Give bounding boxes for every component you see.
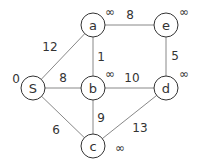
- node-b-label: b: [89, 81, 97, 96]
- weight-S-c: 6: [52, 123, 60, 137]
- node-e-label: e: [162, 18, 170, 33]
- node-c-label: c: [89, 139, 96, 154]
- node-a-label: a: [89, 18, 97, 33]
- weight-a-e: 8: [126, 8, 134, 22]
- weight-S-a: 12: [42, 40, 57, 54]
- node-S: S: [21, 76, 45, 100]
- weight-S-b: 8: [59, 71, 67, 85]
- dist-S: 0: [12, 72, 20, 86]
- node-c: c: [81, 134, 105, 158]
- dist-d: ∞: [179, 67, 189, 81]
- weight-b-c: 9: [97, 111, 105, 125]
- dist-a: ∞: [105, 5, 115, 19]
- edge-S-c: [33, 88, 93, 146]
- weight-b-d: 10: [124, 71, 139, 85]
- node-d: d: [154, 76, 178, 100]
- node-e: e: [154, 13, 178, 37]
- node-b: b: [81, 76, 105, 100]
- dist-b: ∞: [105, 67, 115, 81]
- node-d-label: d: [162, 81, 170, 96]
- graph-diagram: 12 8 6 1 8 10 9 5 13 S a b c d: [0, 0, 200, 165]
- node-S-label: S: [29, 81, 37, 96]
- weight-a-b: 1: [97, 50, 105, 64]
- node-a: a: [81, 13, 105, 37]
- dist-c: ∞: [115, 141, 125, 155]
- nodes: S a b c d e: [21, 13, 178, 158]
- weight-c-d: 13: [132, 121, 147, 135]
- dist-e: ∞: [179, 5, 189, 19]
- weight-e-d: 5: [171, 49, 179, 63]
